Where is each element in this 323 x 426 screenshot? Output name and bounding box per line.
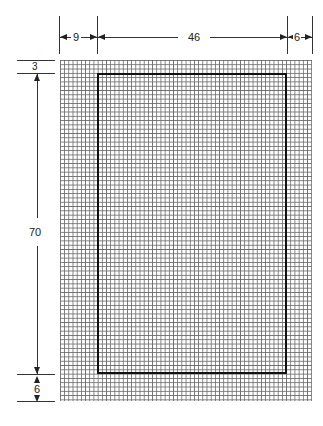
dim-label-bottom-margin: 6: [32, 383, 42, 395]
dim-label-left-margin: 9: [71, 31, 81, 43]
content-area-rectangle: [97, 73, 287, 374]
arrow-right-icon: [305, 34, 312, 40]
arrow-right-icon: [90, 34, 97, 40]
left-extension-line-inner-bottom: [17, 374, 55, 375]
arrow-right-icon: [280, 34, 287, 40]
dim-label-top-margin: 3: [30, 61, 40, 73]
top-extension-line-right: [312, 16, 313, 54]
arrow-left-icon: [60, 34, 67, 40]
dim-label-content-height: 70: [27, 218, 43, 246]
arrow-down-icon: [34, 367, 40, 374]
arrow-up-icon: [34, 376, 40, 383]
dim-label-right-margin: 6: [293, 31, 301, 43]
dim-label-content-width: 46: [178, 31, 210, 43]
arrow-up-icon: [34, 74, 40, 81]
arrow-down-icon: [34, 395, 40, 402]
arrow-left-icon: [98, 34, 105, 40]
